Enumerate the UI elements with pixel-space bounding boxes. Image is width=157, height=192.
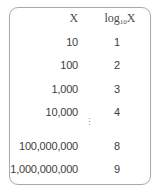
cell-log: 1: [106, 34, 128, 50]
table-row: 100 2: [0, 57, 157, 73]
vertical-ellipsis: ⋮: [84, 118, 94, 127]
cell-x: 100,000,000: [19, 138, 78, 154]
cell-log: 2: [106, 57, 128, 73]
cell-x: 1,000,000,000: [10, 161, 78, 177]
cell-x: 1,000: [51, 81, 78, 97]
cell-x: 100: [60, 57, 78, 73]
table-row: 10 1: [0, 34, 157, 50]
table-row: 1,000 3: [0, 81, 157, 97]
cell-log: 4: [106, 104, 128, 120]
table-header: X log10X: [0, 10, 157, 26]
table-row: 1,000,000,000 9: [0, 161, 157, 177]
cell-log: 8: [106, 138, 128, 154]
cell-x: 10,000: [46, 104, 78, 120]
cell-x: 10: [66, 34, 78, 50]
table-row: 100,000,000 8: [0, 138, 157, 154]
header-log10x: log10X: [96, 10, 144, 30]
cell-log: 3: [106, 81, 128, 97]
header-x: X: [70, 10, 78, 26]
table-row: 10,000 4: [0, 104, 157, 120]
cell-log: 9: [106, 161, 128, 177]
